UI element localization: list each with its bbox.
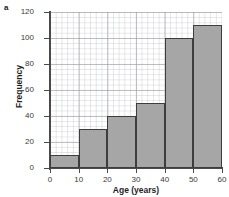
y-tick-label: 120 — [0, 8, 34, 16]
x-tick — [193, 168, 194, 173]
y-tick — [44, 116, 50, 117]
x-tick — [136, 168, 137, 173]
x-tick-label: 10 — [67, 176, 91, 184]
figure: a 020406080100120 0102030405060 Frequenc… — [0, 0, 229, 197]
x-tick — [79, 168, 80, 173]
x-tick-label: 60 — [210, 176, 229, 184]
bar — [136, 103, 165, 168]
y-tick — [44, 38, 50, 39]
x-tick — [222, 168, 223, 173]
x-tick-label: 20 — [95, 176, 119, 184]
x-tick — [50, 168, 51, 173]
y-tick — [44, 142, 50, 143]
bar — [165, 38, 194, 168]
x-axis-title: Age (years) — [50, 186, 222, 195]
x-tick-label: 50 — [181, 176, 205, 184]
bar — [107, 116, 136, 168]
y-axis-title: Frequency — [15, 37, 24, 137]
x-tick-label: 0 — [38, 176, 62, 184]
y-tick-label: 0 — [0, 164, 34, 172]
y-tick — [44, 64, 50, 65]
x-tick-label: 30 — [124, 176, 148, 184]
x-tick — [165, 168, 166, 173]
x-tick-label: 40 — [153, 176, 177, 184]
y-tick — [44, 12, 50, 13]
bar-series — [50, 12, 222, 168]
y-tick-label: 20 — [0, 138, 34, 146]
y-tick — [44, 90, 50, 91]
bar — [79, 129, 108, 168]
bar — [193, 25, 222, 168]
bar — [50, 155, 79, 168]
x-tick — [107, 168, 108, 173]
